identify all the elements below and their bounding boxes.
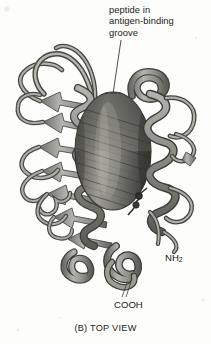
callout-line-1: peptide in bbox=[109, 4, 150, 15]
right-outer-loop-group bbox=[164, 98, 196, 252]
bottom-left-helix-coil bbox=[64, 252, 91, 280]
peptide-groove-callout: peptide inantigen-bindinggroove bbox=[109, 4, 174, 38]
callout-line-2: antigen-binding bbox=[109, 15, 174, 26]
amino-terminus-label: NH2 bbox=[165, 252, 183, 263]
protein-ribbon-diagram bbox=[0, 0, 211, 344]
amino-terminus-text: NH bbox=[165, 252, 179, 263]
callout-line-3: groove bbox=[109, 27, 138, 38]
figure-caption: (B) TOP VIEW bbox=[0, 323, 211, 333]
mhc-top-view-figure: peptide inantigen-bindinggroove NH2 COOH… bbox=[0, 0, 211, 344]
peptide-leader-line bbox=[113, 40, 121, 94]
carboxyl-terminus-label: COOH bbox=[114, 299, 143, 310]
amino-terminus-subscript: 2 bbox=[179, 256, 183, 263]
bottom-right-helix-coil bbox=[107, 246, 138, 287]
